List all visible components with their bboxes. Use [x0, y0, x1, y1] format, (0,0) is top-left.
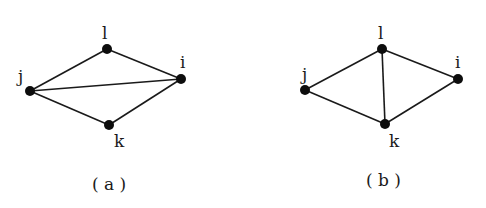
node-b-k [380, 119, 390, 129]
node-a-l [102, 44, 112, 54]
edge-b-l-i [382, 49, 458, 79]
caption-a: ( a ) [92, 174, 126, 194]
label-b-i: i [455, 52, 461, 72]
node-a-i [176, 74, 186, 84]
caption-b: ( b ) [366, 170, 401, 190]
node-b-l [377, 44, 387, 54]
node-b-j [300, 85, 310, 95]
edge-b-j-l [305, 49, 382, 90]
label-b-k: k [389, 131, 400, 151]
label-a-i: i [180, 52, 186, 72]
label-a-j: j [16, 66, 23, 86]
edge-a-j-k [30, 91, 109, 125]
graph-a: l j i k ( a ) [16, 23, 186, 194]
label-a-k: k [114, 131, 125, 151]
edge-a-j-l [30, 49, 107, 91]
label-b-l: l [378, 23, 383, 43]
edge-a-l-i [107, 49, 181, 79]
node-b-i [453, 74, 463, 84]
label-b-j: j [300, 64, 307, 84]
edge-b-l-k [382, 49, 385, 124]
graph-b: l j i k ( b ) [300, 23, 463, 190]
edge-a-k-i [109, 79, 181, 125]
edge-b-k-i [385, 79, 458, 124]
label-a-l: l [102, 23, 107, 43]
edge-b-j-k [305, 90, 385, 124]
node-a-k [104, 120, 114, 130]
diagram-canvas: l j i k ( a ) l j i k ( b ) [0, 0, 486, 208]
node-a-j [25, 86, 35, 96]
edge-a-j-i [30, 79, 181, 91]
